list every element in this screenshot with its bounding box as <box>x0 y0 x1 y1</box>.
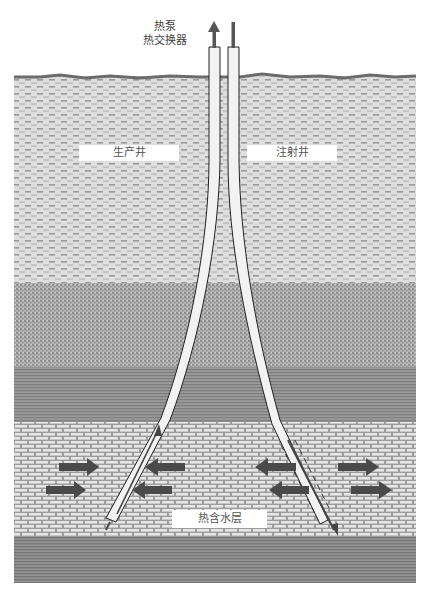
layer-speckled <box>14 283 416 367</box>
heat-exchanger-label: 热交换器 <box>120 34 210 48</box>
production-well-label: 生产井 <box>79 145 179 161</box>
aquifer-label: 热含水层 <box>172 510 267 528</box>
aquifer-geothermal-diagram <box>0 0 429 596</box>
heat-in-line <box>232 22 236 48</box>
layer-bedrock <box>14 537 416 583</box>
layer-clay <box>14 367 416 422</box>
heat-pump-exchanger-label: 热泵 热交换器 <box>120 20 210 48</box>
heat-pump-label: 热泵 <box>120 20 210 34</box>
injection-well-label: 注射井 <box>247 145 337 161</box>
